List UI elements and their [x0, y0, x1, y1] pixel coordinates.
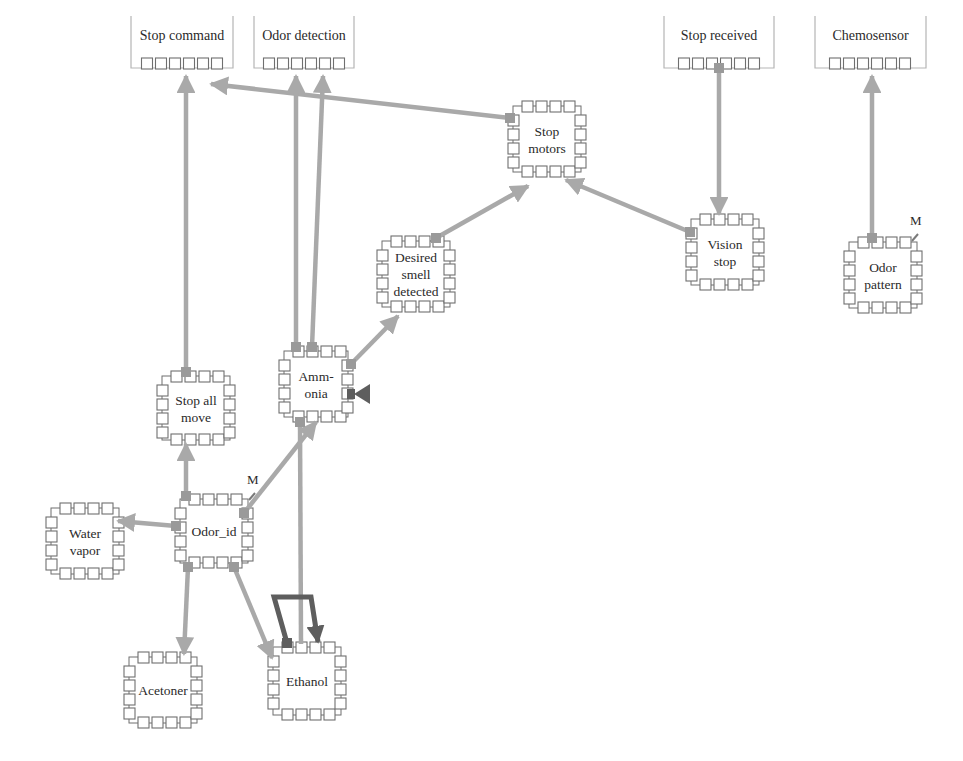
port[interactable]: [872, 58, 883, 69]
port[interactable]: [217, 557, 228, 568]
edge-ammonia-to-desired-smell[interactable]: [351, 316, 398, 364]
port[interactable]: [124, 708, 135, 719]
node-water-vapor[interactable]: Watervapor: [46, 503, 124, 579]
port[interactable]: [180, 717, 191, 728]
port[interactable]: [279, 360, 290, 371]
port[interactable]: [217, 494, 228, 505]
port[interactable]: [152, 717, 163, 728]
port[interactable]: [199, 434, 210, 445]
node-odor-id[interactable]: Odor_id: [175, 494, 253, 568]
port[interactable]: [199, 371, 210, 382]
port[interactable]: [175, 508, 186, 519]
port[interactable]: [444, 292, 455, 303]
port[interactable]: [124, 666, 135, 677]
port[interactable]: [844, 293, 855, 304]
port[interactable]: [203, 557, 214, 568]
port[interactable]: [152, 652, 163, 663]
port[interactable]: [714, 214, 725, 225]
port[interactable]: [508, 157, 519, 168]
port[interactable]: [113, 545, 124, 556]
port[interactable]: [175, 536, 186, 547]
port[interactable]: [296, 709, 307, 720]
port[interactable]: [306, 58, 317, 69]
self-loop-ethanol[interactable]: [274, 597, 318, 643]
port[interactable]: [142, 58, 153, 69]
port[interactable]: [508, 143, 519, 154]
port[interactable]: [278, 58, 289, 69]
edge-ammonia-to-odor-detection[interactable]: [312, 76, 323, 347]
port[interactable]: [113, 559, 124, 570]
port[interactable]: [686, 256, 697, 267]
port[interactable]: [377, 250, 388, 261]
port[interactable]: [686, 270, 697, 281]
port[interactable]: [102, 568, 113, 579]
port[interactable]: [157, 413, 168, 424]
port[interactable]: [212, 58, 223, 69]
port[interactable]: [191, 666, 202, 677]
port[interactable]: [550, 166, 561, 177]
port[interactable]: [911, 279, 922, 290]
edge-ammonia-to-ethanol[interactable]: [300, 422, 301, 644]
port[interactable]: [700, 214, 711, 225]
port[interactable]: [279, 388, 290, 399]
port[interactable]: [282, 709, 293, 720]
port[interactable]: [911, 293, 922, 304]
port[interactable]: [844, 265, 855, 276]
port[interactable]: [444, 278, 455, 289]
port[interactable]: [334, 58, 345, 69]
port[interactable]: [74, 568, 85, 579]
port[interactable]: [886, 58, 897, 69]
port[interactable]: [911, 265, 922, 276]
port[interactable]: [307, 411, 318, 422]
port[interactable]: [433, 301, 444, 312]
port[interactable]: [444, 250, 455, 261]
port[interactable]: [391, 236, 402, 247]
port[interactable]: [224, 385, 235, 396]
port[interactable]: [728, 214, 739, 225]
port[interactable]: [900, 237, 911, 248]
port[interactable]: [753, 228, 764, 239]
port[interactable]: [700, 279, 711, 290]
node-desired-smell[interactable]: Desiredsmelldetected: [377, 236, 455, 312]
port[interactable]: [753, 242, 764, 253]
port[interactable]: [88, 568, 99, 579]
port[interactable]: [900, 58, 911, 69]
port[interactable]: [157, 427, 168, 438]
port[interactable]: [113, 531, 124, 542]
port[interactable]: [753, 270, 764, 281]
port[interactable]: [911, 251, 922, 262]
node-ammonia[interactable]: Amm-onia: [279, 346, 353, 422]
port[interactable]: [74, 503, 85, 514]
port[interactable]: [213, 371, 224, 382]
port[interactable]: [324, 642, 335, 653]
port[interactable]: [679, 58, 690, 69]
port[interactable]: [191, 708, 202, 719]
port[interactable]: [735, 58, 746, 69]
port[interactable]: [166, 652, 177, 663]
edge-vision-stop-to-stop-motors[interactable]: [566, 180, 690, 232]
port[interactable]: [203, 494, 214, 505]
port[interactable]: [335, 670, 346, 681]
port[interactable]: [522, 166, 533, 177]
port[interactable]: [335, 698, 346, 709]
port[interactable]: [858, 302, 869, 313]
node-ethanol[interactable]: Ethanol: [268, 642, 346, 720]
port[interactable]: [310, 709, 321, 720]
edge-desired-smell-to-stop-motors[interactable]: [436, 186, 528, 238]
port[interactable]: [198, 58, 209, 69]
port[interactable]: [405, 236, 416, 247]
port[interactable]: [46, 531, 57, 542]
port[interactable]: [575, 157, 586, 168]
port[interactable]: [191, 694, 202, 705]
io-node-stop-received[interactable]: Stop received: [664, 16, 774, 69]
port[interactable]: [279, 374, 290, 385]
port[interactable]: [60, 503, 71, 514]
port[interactable]: [268, 684, 279, 695]
node-acetoner[interactable]: Acetoner: [124, 652, 202, 728]
node-stop-all-move[interactable]: Stop allmove: [157, 371, 235, 445]
port[interactable]: [342, 374, 353, 385]
port[interactable]: [213, 434, 224, 445]
port[interactable]: [224, 399, 235, 410]
port[interactable]: [742, 214, 753, 225]
port[interactable]: [170, 58, 181, 69]
